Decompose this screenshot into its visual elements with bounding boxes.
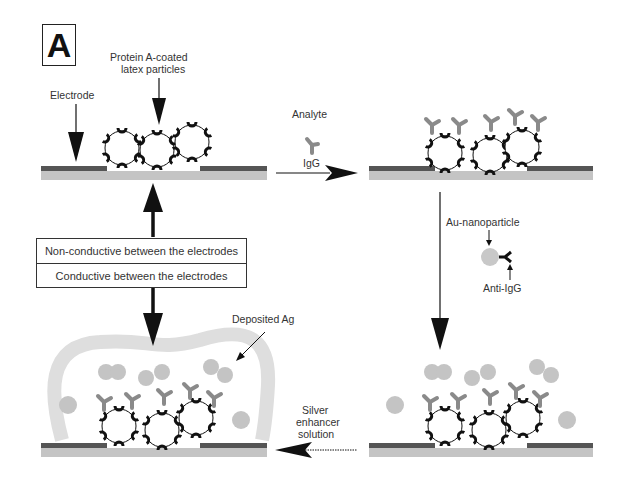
electrode-arrow-icon xyxy=(68,132,84,162)
protein-a-arrow-icon xyxy=(152,98,166,125)
label-anti-igg: Anti-IgG xyxy=(483,282,522,294)
label-latex-particles: latex particles xyxy=(121,63,185,75)
panel-label: A xyxy=(42,24,76,66)
label-deposited-ag: Deposited Ag xyxy=(232,313,294,325)
up-arrow-icon xyxy=(143,183,163,212)
electrode-stage-4 xyxy=(41,334,268,457)
label-electrode: Electrode xyxy=(50,89,94,101)
label-solution: solution xyxy=(298,428,334,440)
down-arrow-icon xyxy=(431,318,449,350)
label-igg: IgG xyxy=(303,157,320,169)
electrode-stage-2 xyxy=(369,110,593,180)
label-analyte: Analyte xyxy=(292,108,327,120)
label-enhancer: enhancer xyxy=(296,416,340,428)
label-silver: Silver xyxy=(302,404,328,416)
conductivity-state-box: Non-conductive between the electrodes Co… xyxy=(36,238,247,288)
state-non-conductive: Non-conductive between the electrodes xyxy=(37,239,246,264)
igg-analyte-icon xyxy=(307,139,318,153)
electrode-stage-3 xyxy=(369,359,593,457)
state-conductive: Conductive between the electrodes xyxy=(37,264,246,288)
label-protein-a: Protein A-coated xyxy=(110,51,188,63)
au-anti-igg-icon xyxy=(481,230,513,280)
label-au-nanoparticle: Au-nanoparticle xyxy=(446,216,520,228)
